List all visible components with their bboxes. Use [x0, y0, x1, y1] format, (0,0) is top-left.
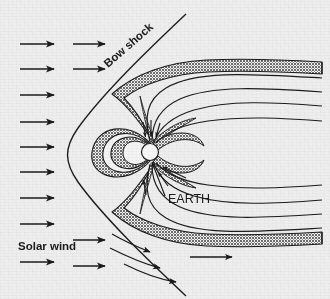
earth-label: EARTH	[168, 192, 210, 206]
solar-wind-label: Solar wind	[18, 240, 76, 252]
earth-sphere	[142, 144, 159, 161]
diagram-background	[0, 0, 330, 299]
magnetosphere-diagram: EARTH Bow shock Solar wind	[0, 0, 330, 299]
diagram-canvas: EARTH Bow shock Solar wind	[0, 0, 330, 299]
